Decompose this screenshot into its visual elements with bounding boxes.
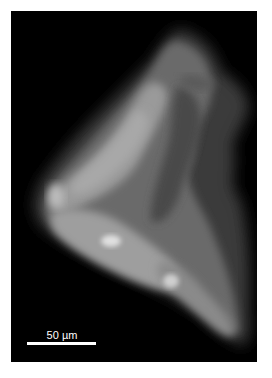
micrograph-frame: 50 µm [11, 11, 257, 362]
cell-image [11, 11, 257, 362]
scale-bar [27, 342, 96, 345]
scale-bar-label: 50 µm [27, 329, 97, 341]
